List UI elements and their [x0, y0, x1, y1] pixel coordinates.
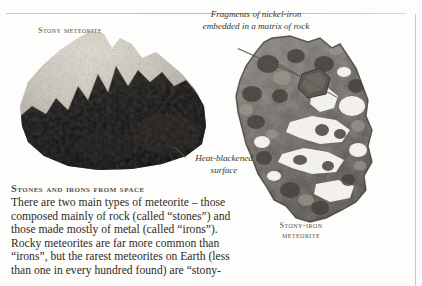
stony-iron-meteorite-photo	[216, 34, 396, 224]
page-canvas: Stony meteorite Stony-iron meteorite Fra…	[0, 0, 422, 286]
stony-meteorite-photo	[16, 22, 212, 174]
caption-heat-blackened-surface: Heat-blackened surface	[186, 153, 262, 177]
label-stony-meteorite: Stony meteorite	[38, 26, 102, 36]
caption-fragments-nickel-iron: Fragments of nickel-iron embedded in a m…	[196, 9, 316, 33]
article-heading: Stones and irons from space	[11, 182, 239, 195]
right-rule	[415, 14, 416, 286]
article-text-block: Stones and irons from space There are tw…	[11, 182, 239, 278]
label-stony-iron-meteorite: Stony-iron meteorite	[262, 221, 340, 241]
article-body: There are two main types of meteorite – …	[11, 196, 239, 278]
